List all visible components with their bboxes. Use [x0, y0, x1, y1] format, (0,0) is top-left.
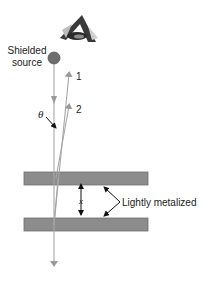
top-plate	[24, 172, 148, 185]
callout-bottom-plate	[104, 202, 120, 216]
ray-1-label: 1	[76, 71, 82, 82]
angle-theta-label: θ	[38, 108, 44, 120]
source-label-line2: source	[12, 57, 42, 68]
shielded-source	[48, 52, 60, 64]
interference-diagram: Shielded source 1 2 θ x Lightly metalize…	[0, 0, 208, 281]
incident-ray-arrowhead	[51, 96, 57, 104]
eye-icon	[60, 15, 98, 42]
source-label-line1: Shielded	[8, 45, 47, 56]
gap-x-label: x	[78, 196, 83, 206]
ray-2-label: 2	[76, 104, 82, 115]
plates-label: Lightly metalized	[122, 197, 196, 208]
callout-top-plate	[104, 187, 120, 202]
bottom-plate	[24, 218, 148, 231]
reflected-ray-2	[56, 106, 69, 178]
